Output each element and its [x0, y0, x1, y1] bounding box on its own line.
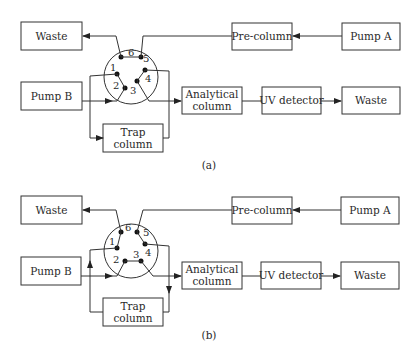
pump-a-box: Pump A	[341, 197, 399, 224]
analytical-label-line1: Analytical	[185, 263, 240, 275]
caption-b: (b)	[202, 329, 217, 341]
diagram-a: Waste Pre-column Pump A Pump B Analytica…	[21, 22, 400, 171]
trap-column-box: Trap column	[103, 298, 163, 326]
pump-b-box: Pump B	[21, 257, 81, 285]
port-1-label: 1	[109, 236, 115, 247]
port-6-label: 6	[125, 222, 131, 233]
port-4-label: 4	[145, 247, 151, 258]
waste-box-right: Waste	[341, 262, 399, 289]
port-6-label: 6	[128, 47, 134, 58]
pump-a-label: Pump A	[349, 204, 391, 216]
six-port-valve: 6 5 1 2 3 4	[104, 47, 158, 104]
analytical-column-box: Analytical column	[182, 87, 242, 114]
waste-label: Waste	[36, 204, 68, 216]
port-3-label: 3	[133, 249, 139, 260]
analytical-label-line2: column	[192, 100, 231, 112]
pump-a-label: Pump A	[350, 30, 392, 42]
pre-column-label: Pre-column	[232, 30, 293, 42]
trap-column-box: Trap column	[103, 124, 163, 152]
port-4-label: 4	[145, 73, 151, 84]
analytical-column-box: Analytical column	[182, 262, 242, 289]
port-5-label: 5	[143, 53, 149, 64]
waste-right-label: Waste	[355, 94, 387, 106]
waste-right-label: Waste	[354, 269, 386, 281]
pump-b-label: Pump B	[30, 265, 72, 277]
pump-b-label: Pump B	[31, 90, 73, 102]
column-switching-figure: Waste Pre-column Pump A Pump B Analytica…	[0, 0, 418, 355]
pre-column-box: Pre-column	[232, 23, 293, 50]
uv-detector-box: UV detector	[259, 262, 325, 289]
pump-b-box: Pump B	[21, 82, 82, 110]
uv-detector-label: UV detector	[259, 269, 325, 281]
analytical-label-line1: Analytical	[185, 88, 240, 100]
trap-label-line2: column	[113, 312, 152, 324]
trap-label-line2: column	[113, 138, 152, 150]
pre-column-box: Pre-column	[232, 197, 293, 224]
trap-label-line1: Trap	[120, 126, 145, 138]
pump-a-box: Pump A	[342, 23, 400, 50]
waste-label: Waste	[36, 30, 68, 42]
uv-detector-box: UV detector	[259, 87, 325, 114]
uv-detector-label: UV detector	[259, 94, 325, 106]
caption-a: (a)	[202, 159, 216, 171]
waste-box-top: Waste	[21, 22, 82, 50]
six-port-valve: 6 5 1 2 3 4	[104, 222, 158, 278]
port-5-label: 5	[143, 227, 149, 238]
analytical-label-line2: column	[192, 275, 231, 287]
port-3-label: 3	[130, 85, 136, 96]
port-2-label: 2	[113, 80, 119, 91]
trap-label-line1: Trap	[120, 300, 145, 312]
port-1-label: 1	[110, 62, 116, 73]
pre-column-label: Pre-column	[232, 204, 293, 216]
waste-box-top: Waste	[21, 196, 82, 224]
port-2-label: 2	[113, 254, 119, 265]
diagram-b: Waste Pre-column Pump A Pump B Analytica…	[21, 196, 399, 341]
waste-box-right: Waste	[342, 87, 400, 114]
